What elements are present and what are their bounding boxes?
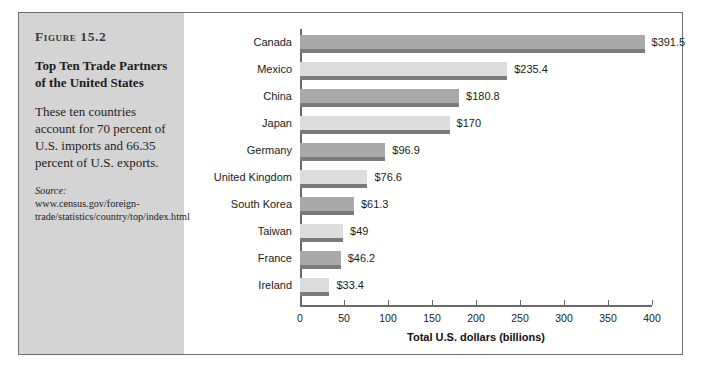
figure-source: Source: www.census.gov/foreign-trade/sta… [35,184,170,223]
bar [300,143,385,157]
x-axis-tick [388,300,389,305]
bar [300,116,450,130]
x-axis-tick-label: 400 [643,312,661,324]
x-axis-line [300,305,652,307]
category-label: Germany [247,144,292,156]
chart-area: Total U.S. dollars (billions) Canada$391… [184,13,682,354]
bar [300,89,459,103]
bar-value-label: $391.5 [652,36,686,48]
figure-number: Figure 15.2 [35,29,170,45]
x-axis-tick [608,300,609,305]
figure-title: Top Ten Trade Partners of the United Sta… [35,58,170,91]
bar-value-label: $49 [350,225,368,237]
bar-value-label: $46.2 [348,252,376,264]
bar [300,170,367,184]
x-axis-tick [344,300,345,305]
bar-shadow [300,292,329,296]
x-axis-tick-label: 100 [379,312,397,324]
category-label: Ireland [258,279,292,291]
bar-value-label: $235.4 [514,63,548,75]
category-label: South Korea [231,198,292,210]
bar [300,251,341,265]
x-axis-tick-label: 150 [423,312,441,324]
x-axis-tick [476,300,477,305]
category-label: China [263,90,292,102]
x-axis-tick-label: 250 [511,312,529,324]
x-axis-tick-label: 50 [338,312,350,324]
category-label: United Kingdom [214,171,292,183]
category-label: Japan [262,117,292,129]
source-url: www.census.gov/foreign-trade/statistics/… [35,198,190,222]
bar-shadow [300,76,507,80]
bar-value-label: $61.3 [361,198,389,210]
bar-chart-plot: Total U.S. dollars (billions) Canada$391… [184,13,682,354]
x-axis-tick-label: 0 [297,312,303,324]
x-axis-tick-label: 300 [555,312,573,324]
category-label: Taiwan [258,225,292,237]
x-axis-tick [652,300,653,305]
bar-shadow [300,238,343,242]
x-axis-tick-label: 200 [467,312,485,324]
bar-value-label: $96.9 [392,144,420,156]
source-label: Source: [35,185,66,196]
category-label: Canada [253,36,292,48]
bar-value-label: $76.6 [374,171,402,183]
x-axis-tick [520,300,521,305]
figure-frame: Figure 15.2 Top Ten Trade Partners of th… [18,12,683,355]
bar-shadow [300,184,367,188]
bar-value-label: $180.8 [466,90,500,102]
bar-shadow [300,49,645,53]
x-axis-tick [432,300,433,305]
figure-caption-panel: Figure 15.2 Top Ten Trade Partners of th… [19,13,184,354]
category-label: Mexico [257,63,292,75]
bar [300,35,645,49]
x-axis-tick [564,300,565,305]
bar-shadow [300,265,341,269]
bar-shadow [300,130,450,134]
bar [300,197,354,211]
x-axis-tick [300,300,301,305]
bar [300,278,329,292]
bar-value-label: $170 [457,117,481,129]
bar [300,62,507,76]
x-axis-tick-label: 350 [599,312,617,324]
figure-description: These ten countries account for 70 perce… [35,104,170,172]
bar-shadow [300,157,385,161]
bar-shadow [300,103,459,107]
bar-shadow [300,211,354,215]
bar [300,224,343,238]
bar-value-label: $33.4 [336,279,364,291]
x-axis-title: Total U.S. dollars (billions) [407,331,545,343]
category-label: France [258,252,292,264]
